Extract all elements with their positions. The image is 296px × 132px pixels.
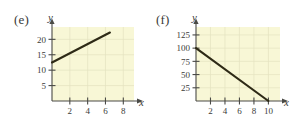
y-tick-label: 20 [37, 35, 47, 45]
x-tick-label: 8 [121, 106, 126, 116]
x-tick-label: 8 [252, 106, 257, 116]
chart-panel-e: (e) y x 51015202468 [0, 0, 148, 132]
y-axis-arrow-e [49, 19, 54, 25]
y-tick-label: 15 [37, 50, 47, 60]
y-axis-arrow-f [193, 19, 198, 25]
y-tick-label: 5 [42, 81, 47, 91]
plot-area-f: 255075100125246810 [148, 0, 296, 132]
x-tick-label: 2 [208, 106, 213, 116]
x-tick-label: 10 [264, 106, 274, 116]
x-axis-arrow-f [282, 98, 288, 103]
y-tick-label: 125 [177, 30, 191, 40]
x-tick-label: 2 [68, 106, 73, 116]
figure-container: (e) y x 51015202468 (f) y x [0, 0, 296, 132]
y-tick-label: 75 [181, 57, 191, 67]
x-tick-label: 6 [103, 106, 108, 116]
chart-panel-f: (f) y x 255075100125246810 [148, 0, 296, 132]
x-axis-arrow-e [137, 98, 143, 103]
x-tick-label: 4 [223, 106, 228, 116]
y-tick-label: 25 [181, 83, 191, 93]
x-tick-label: 4 [85, 106, 90, 116]
y-tick-label: 50 [181, 70, 191, 80]
y-tick-label: 10 [37, 65, 47, 75]
y-tick-label: 100 [177, 43, 191, 53]
plot-area-e: 51015202468 [0, 0, 148, 132]
plot-background-f [196, 27, 280, 101]
plot-background-e [52, 27, 134, 101]
x-tick-label: 6 [237, 106, 242, 116]
